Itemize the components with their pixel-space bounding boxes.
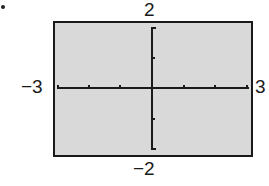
viewing-window xyxy=(53,21,253,157)
ymin-label: −2 xyxy=(133,159,155,178)
axes-plot xyxy=(55,23,251,155)
bullet-marker xyxy=(1,5,5,9)
xmin-label: −3 xyxy=(21,77,43,96)
xmax-label: 3 xyxy=(255,77,266,96)
ymax-label: 2 xyxy=(144,0,155,19)
